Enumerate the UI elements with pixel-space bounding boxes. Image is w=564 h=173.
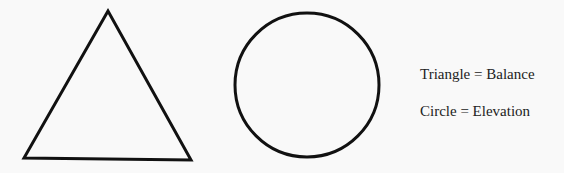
- triangle-shape: [24, 11, 191, 160]
- circle-shape: [235, 13, 379, 157]
- legend-item-circle: Circle = Elevation: [420, 103, 530, 120]
- diagram-canvas: [0, 0, 564, 173]
- legend-item-triangle: Triangle = Balance: [420, 66, 535, 83]
